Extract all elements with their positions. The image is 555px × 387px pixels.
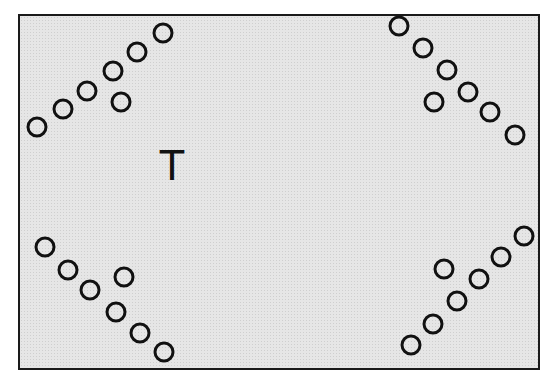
circle-bottom-left bbox=[114, 267, 135, 288]
circle-top-left bbox=[111, 92, 132, 113]
circle-top-left bbox=[27, 117, 48, 138]
circle-bottom-left bbox=[80, 280, 101, 301]
circle-bottom-right bbox=[434, 259, 455, 280]
circle-bottom-left bbox=[154, 342, 175, 363]
circle-top-right bbox=[505, 125, 526, 146]
circle-bottom-left bbox=[58, 260, 79, 281]
circle-top-left bbox=[77, 81, 98, 102]
circle-top-right bbox=[413, 38, 434, 59]
circle-bottom-right bbox=[514, 226, 535, 247]
circle-bottom-right bbox=[447, 291, 468, 312]
circle-bottom-right bbox=[469, 269, 490, 290]
circle-bottom-right bbox=[401, 335, 422, 356]
diagram-frame bbox=[18, 14, 540, 370]
circle-top-left bbox=[53, 99, 74, 120]
circle-bottom-right bbox=[491, 247, 512, 268]
circle-bottom-left bbox=[130, 323, 151, 344]
circle-bottom-left bbox=[106, 302, 127, 323]
circle-bottom-left bbox=[35, 237, 56, 258]
center-label-t: T bbox=[160, 146, 184, 186]
circle-top-left bbox=[127, 42, 148, 63]
circle-top-left bbox=[103, 61, 124, 82]
circle-top-right bbox=[437, 60, 458, 81]
circle-bottom-right bbox=[423, 314, 444, 335]
circle-top-right bbox=[458, 82, 479, 103]
circle-top-right bbox=[480, 102, 501, 123]
circle-top-right bbox=[389, 16, 410, 37]
circle-top-right bbox=[424, 92, 445, 113]
circle-top-left bbox=[153, 23, 174, 44]
